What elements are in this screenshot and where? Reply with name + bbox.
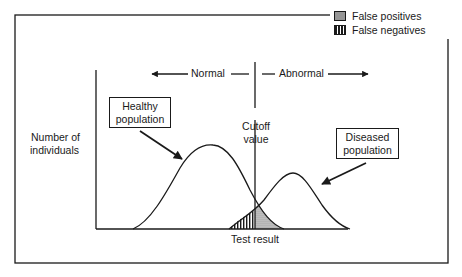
legend-label: False negatives (352, 24, 426, 36)
legend-label: False positives (352, 10, 421, 22)
diseased-callout-arrow (322, 163, 366, 184)
cutoff-label-line2: value (235, 133, 277, 146)
x-axis-label: Test result (215, 233, 295, 246)
cutoff-label-line1: Cutoff (235, 120, 277, 133)
y-axis-label-line1: Number of (31, 131, 80, 144)
y-axis-label-line2: individuals (30, 144, 79, 157)
healthy-label-line2: population (110, 113, 170, 126)
striped-swatch-icon (334, 25, 346, 35)
healthy-population-box: Healthy population (109, 97, 171, 128)
healthy-label-line1: Healthy (110, 100, 170, 113)
dotted-swatch-icon (334, 11, 346, 21)
healthy-callout-arrow (140, 131, 182, 159)
abnormal-label: Abnormal (279, 67, 324, 80)
diseased-label-line2: population (337, 144, 398, 157)
legend-item-false-positives: False positives (334, 10, 421, 22)
normal-label: Normal (191, 67, 225, 80)
diseased-population-box: Diseased population (336, 128, 399, 159)
legend-item-false-negatives: False negatives (334, 24, 426, 36)
diseased-label-line1: Diseased (337, 131, 398, 144)
